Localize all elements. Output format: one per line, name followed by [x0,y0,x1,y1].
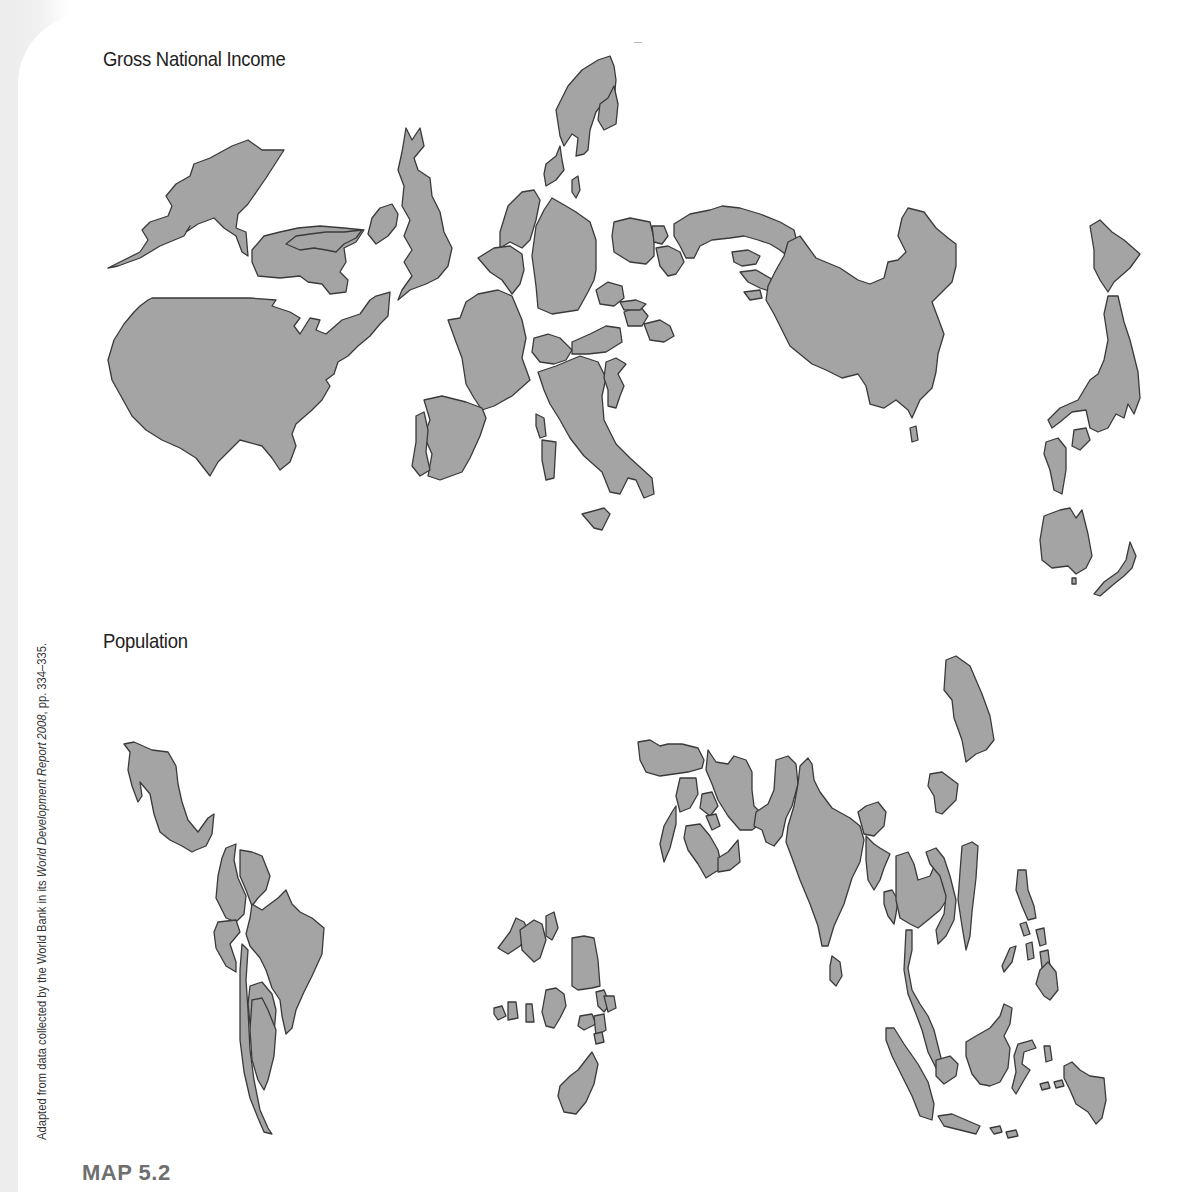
region-belgium [478,246,524,294]
region-malay-peninsula [904,930,944,1070]
region-levant [660,806,676,862]
region-kyushu [1044,438,1066,494]
region-ukraine [656,246,684,276]
region-mexico [124,742,214,852]
region-lesser-sunda [990,1126,1018,1138]
region-germany [532,198,596,314]
region-kazakhstan [732,250,760,266]
region-france [448,290,530,410]
region-sudan [546,912,558,940]
region-iraq [676,778,698,812]
region-sweden-south [572,176,580,198]
region-north-korea [928,772,958,814]
region-borneo [966,1004,1012,1086]
region-java [938,1114,980,1134]
region-philippines-islands [1020,922,1050,968]
region-ghana-group-2 [508,1002,518,1020]
region-south-korea [944,656,994,762]
cartogram-maps [0,0,1196,1192]
region-jordan [706,814,720,830]
region-italy [538,356,654,498]
region-south-africa [558,1052,598,1114]
region-poland [612,218,654,264]
region-switzerland [532,334,572,364]
region-hokkaido [1090,220,1140,292]
region-turkey-gni [744,290,762,300]
region-honshu [1048,296,1140,432]
region-congo [542,988,566,1028]
region-uk [398,128,452,300]
region-palawan [1002,946,1016,972]
region-philippines-luzon [1016,870,1036,920]
population-cartogram [124,656,1106,1138]
region-slovakia [620,300,646,310]
region-singapore-riau [936,1056,958,1084]
region-tasmania [1072,578,1076,584]
region-syria [700,792,718,816]
region-mozambique [594,1032,604,1044]
region-china [766,208,956,418]
region-peru [214,920,240,972]
region-yemen [718,840,740,872]
region-turkey [638,740,704,776]
region-taiwan [910,426,918,442]
region-new-zealand [1094,542,1136,596]
region-egypt [572,936,600,990]
region-sri-lanka [830,956,842,986]
region-usa [108,292,390,476]
region-papua [1064,1062,1106,1124]
region-ghana-group-3 [526,1004,534,1022]
region-baltics [652,226,668,244]
region-taiwan-pop [958,842,978,950]
region-bangladesh [866,836,890,890]
region-sicily [582,508,610,530]
region-india [786,758,864,946]
region-sulawesi [1012,1040,1036,1094]
region-ireland [368,204,398,244]
region-austria [572,326,622,354]
gni-cartogram [108,56,1140,596]
region-portugal [412,412,430,476]
region-maluku [1040,1046,1064,1090]
region-corsica [536,414,546,438]
region-saudi-arabia [684,824,722,878]
region-ghana-group-1 [494,1006,506,1020]
region-mindanao [1036,962,1058,1000]
region-nepal-bhutan [858,802,886,836]
region-greece [604,358,626,408]
region-russia [674,206,798,258]
region-shikoku [1072,428,1090,450]
region-spain [424,396,486,480]
region-denmark [544,146,564,186]
region-australia [1040,508,1092,574]
region-romania [644,320,674,342]
region-sardinia [542,440,556,480]
region-tanzania [578,1014,596,1030]
